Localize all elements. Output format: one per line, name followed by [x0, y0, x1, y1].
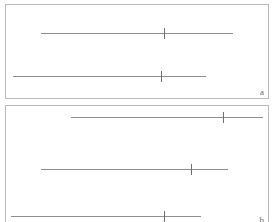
interval-tick — [223, 112, 224, 123]
interval-bar — [13, 76, 206, 77]
panel-label-b: b — [260, 215, 265, 222]
panel-b: b — [5, 105, 269, 222]
interval-tick — [161, 71, 162, 82]
panel-label-a: a — [260, 87, 264, 97]
figure-canvas: a b — [0, 0, 275, 222]
interval-tick — [191, 164, 192, 175]
interval-bar — [11, 216, 201, 217]
interval-tick — [164, 28, 165, 39]
interval-bar — [71, 117, 263, 118]
interval-tick — [164, 211, 165, 222]
panel-a: a — [5, 4, 269, 99]
interval-bar — [41, 33, 233, 34]
interval-bar — [41, 169, 228, 170]
